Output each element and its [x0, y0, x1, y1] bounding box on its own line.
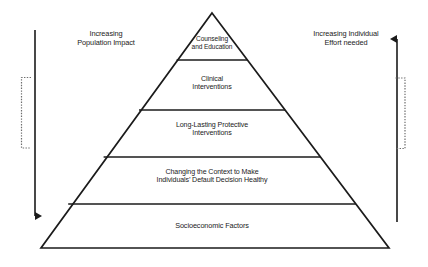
pyramid-graphic: [0, 0, 428, 267]
health-impact-pyramid-figure: Counseling and Education Clinical Interv…: [0, 0, 428, 267]
left-bracket-icon: [22, 78, 32, 149]
pyramid-outline: [41, 13, 389, 248]
